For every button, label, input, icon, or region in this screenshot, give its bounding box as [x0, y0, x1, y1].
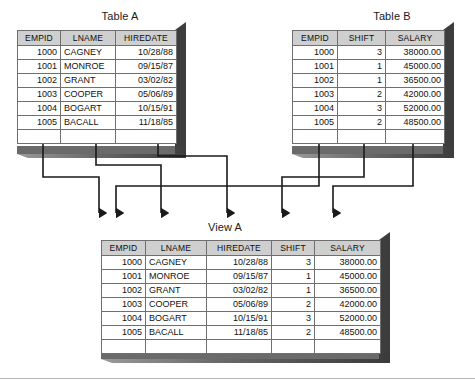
cell-shift: 1	[338, 60, 386, 74]
cell-hiredate: 05/06/89	[207, 298, 272, 312]
cell-empid: 1000	[102, 256, 146, 270]
cell-salary: 38000.00	[386, 46, 445, 60]
table-row[interactable]: 1005248500.00	[293, 116, 445, 130]
table-empty-row	[18, 130, 177, 144]
cell-empid: 1002	[293, 74, 338, 88]
cell-salary: 36500.00	[315, 284, 381, 298]
column-header-shift[interactable]: SHIFT	[338, 31, 386, 46]
column-header-hiredate[interactable]: HIREDATE	[116, 31, 177, 46]
cell-empid: 1003	[293, 88, 338, 102]
cell-empid: 1003	[102, 298, 146, 312]
cell-lname: MONROE	[61, 60, 116, 74]
cell-shift: 3	[272, 312, 315, 326]
column-header-lname[interactable]: LNAME	[61, 31, 116, 46]
column-header-lname[interactable]: LNAME	[146, 241, 207, 256]
cell-hiredate: 09/15/87	[207, 270, 272, 284]
table-row[interactable]: 1000338000.00	[293, 46, 445, 60]
table-row[interactable]: 1002GRANT03/02/82	[18, 74, 177, 88]
view-a-title: View A	[165, 221, 285, 233]
cell-empty	[18, 130, 61, 144]
column-header-empid[interactable]: EMPID	[102, 241, 146, 256]
column-header-salary[interactable]: SALARY	[386, 31, 445, 46]
cell-empty	[338, 130, 386, 144]
cell-salary: 52000.00	[386, 102, 445, 116]
cell-lname: GRANT	[146, 284, 207, 298]
cell-empid: 1001	[102, 270, 146, 284]
cell-lname: COOPER	[146, 298, 207, 312]
table-row[interactable]: 1002GRANT03/02/82136500.00	[102, 284, 381, 298]
cell-empty	[116, 130, 177, 144]
view-a-grid[interactable]: EMPIDLNAMEHIREDATESHIFTSALARY 1000CAGNEY…	[101, 240, 381, 354]
cell-salary: 38000.00	[315, 256, 381, 270]
cell-empty	[207, 340, 272, 354]
cell-empid: 1003	[18, 88, 61, 102]
cell-hiredate: 05/06/89	[116, 88, 177, 102]
cell-salary: 48500.00	[386, 116, 445, 130]
cell-shift: 2	[272, 298, 315, 312]
cell-lname: BOGART	[146, 312, 207, 326]
diagram-canvas: Table A Table B View A EMPIDLNAMEHIREDAT…	[0, 0, 475, 385]
column-header-empid[interactable]: EMPID	[18, 31, 61, 46]
table-row[interactable]: 1001MONROE09/15/87	[18, 60, 177, 74]
cell-empid: 1005	[293, 116, 338, 130]
cell-empid: 1000	[293, 46, 338, 60]
table-a-grid[interactable]: EMPIDLNAMEHIREDATE 1000CAGNEY10/28/88100…	[17, 30, 177, 144]
table-header-row: EMPIDSHIFTSALARY	[293, 31, 445, 46]
column-header-hiredate[interactable]: HIREDATE	[207, 241, 272, 256]
cell-salary: 48500.00	[315, 326, 381, 340]
cell-salary: 45000.00	[386, 60, 445, 74]
bottom-divider	[0, 378, 475, 379]
cell-shift: 3	[272, 256, 315, 270]
cell-salary: 52000.00	[315, 312, 381, 326]
table-b-title: Table B	[332, 10, 452, 22]
cell-empty	[386, 130, 445, 144]
cell-empid: 1005	[102, 326, 146, 340]
cell-empid: 1001	[293, 60, 338, 74]
table-row[interactable]: 1005BACALL11/18/85248500.00	[102, 326, 381, 340]
cell-salary: 45000.00	[315, 270, 381, 284]
cell-empty	[315, 340, 381, 354]
table-row[interactable]: 1002136500.00	[293, 74, 445, 88]
cell-hiredate: 10/28/88	[207, 256, 272, 270]
cell-empty	[293, 130, 338, 144]
cell-hiredate: 10/28/88	[116, 46, 177, 60]
table-header-row: EMPIDLNAMEHIREDATESHIFTSALARY	[102, 241, 381, 256]
cell-shift: 3	[338, 102, 386, 116]
table-row[interactable]: 1003COOPER05/06/89	[18, 88, 177, 102]
table-row[interactable]: 1005BACALL11/18/85	[18, 116, 177, 130]
table-row[interactable]: 1004352000.00	[293, 102, 445, 116]
cell-shift: 3	[338, 46, 386, 60]
table-row[interactable]: 1000CAGNEY10/28/88	[18, 46, 177, 60]
cell-salary: 42000.00	[315, 298, 381, 312]
cell-lname: CAGNEY	[61, 46, 116, 60]
table-empty-row	[293, 130, 445, 144]
cell-empid: 1004	[293, 102, 338, 116]
table-row[interactable]: 1003COOPER05/06/89242000.00	[102, 298, 381, 312]
cell-shift: 1	[338, 74, 386, 88]
table-row[interactable]: 1003242000.00	[293, 88, 445, 102]
table-row[interactable]: 1001MONROE09/15/87145000.00	[102, 270, 381, 284]
table-empty-row	[102, 340, 381, 354]
column-header-shift[interactable]: SHIFT	[272, 241, 315, 256]
table-row[interactable]: 1000CAGNEY10/28/88338000.00	[102, 256, 381, 270]
table-row[interactable]: 1001145000.00	[293, 60, 445, 74]
table-a-title: Table A	[60, 10, 180, 22]
table-row[interactable]: 1004BOGART10/15/91	[18, 102, 177, 116]
cell-empid: 1001	[18, 60, 61, 74]
cell-lname: MONROE	[146, 270, 207, 284]
table-b-grid[interactable]: EMPIDSHIFTSALARY 1000338000.001001145000…	[292, 30, 445, 144]
cell-empid: 1004	[18, 102, 61, 116]
column-header-empid[interactable]: EMPID	[293, 31, 338, 46]
cell-lname: BACALL	[61, 116, 116, 130]
table-row[interactable]: 1004BOGART10/15/91352000.00	[102, 312, 381, 326]
cell-empty	[102, 340, 146, 354]
cell-hiredate: 10/15/91	[207, 312, 272, 326]
cell-shift: 2	[338, 88, 386, 102]
cell-lname: BOGART	[61, 102, 116, 116]
column-header-salary[interactable]: SALARY	[315, 241, 381, 256]
cell-salary: 42000.00	[386, 88, 445, 102]
cell-lname: COOPER	[61, 88, 116, 102]
cell-empid: 1004	[102, 312, 146, 326]
cell-empty	[61, 130, 116, 144]
table-header-row: EMPIDLNAMEHIREDATE	[18, 31, 177, 46]
